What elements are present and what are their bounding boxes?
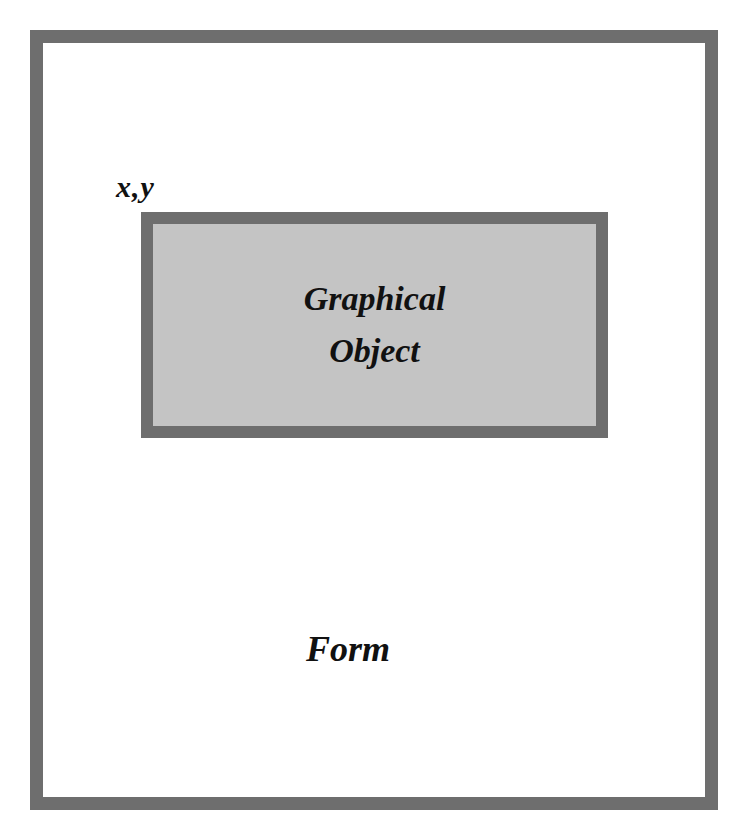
origin-coordinate-label: x,y [116,170,155,204]
graphical-object-label-line-1: Graphical [304,273,446,325]
graphical-object-box: Graphical Object [141,212,608,438]
graphical-object-label-line-2: Object [329,325,420,377]
form-label: Form [306,628,390,670]
